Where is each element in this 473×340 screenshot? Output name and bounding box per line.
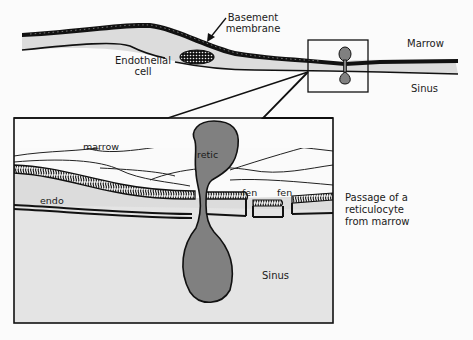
zoom-line-right <box>263 72 333 118</box>
label-endothelial-cell: Endothelial cell <box>113 55 173 77</box>
label-basement: Basement <box>223 12 283 23</box>
label-fen-2: fen <box>277 187 292 198</box>
label-cell: cell <box>113 66 173 77</box>
label-sinus-detail: Sinus <box>262 270 289 281</box>
endothelial-nucleus-icon <box>180 50 214 64</box>
caption: Passage of a reticulocyte from marrow <box>345 192 409 228</box>
label-endothelial: Endothelial <box>113 55 173 66</box>
label-basement-membrane: Basement membrane <box>223 12 283 34</box>
detail-view <box>14 118 333 323</box>
label-membrane: membrane <box>223 23 283 34</box>
diagram-canvas <box>0 0 473 340</box>
label-retic: retic <box>197 149 218 160</box>
zoom-line-left <box>14 72 308 118</box>
caption-line-1: Passage of a <box>345 192 409 204</box>
label-marrow-detail: marrow <box>83 141 119 152</box>
caption-line-3: from marrow <box>345 216 409 228</box>
caption-line-2: reticulocyte <box>345 204 409 216</box>
label-endo: endo <box>40 195 64 206</box>
label-sinus-overview: Sinus <box>411 83 438 94</box>
label-marrow-overview: Marrow <box>407 38 444 49</box>
label-fen-1: fen <box>242 187 257 198</box>
